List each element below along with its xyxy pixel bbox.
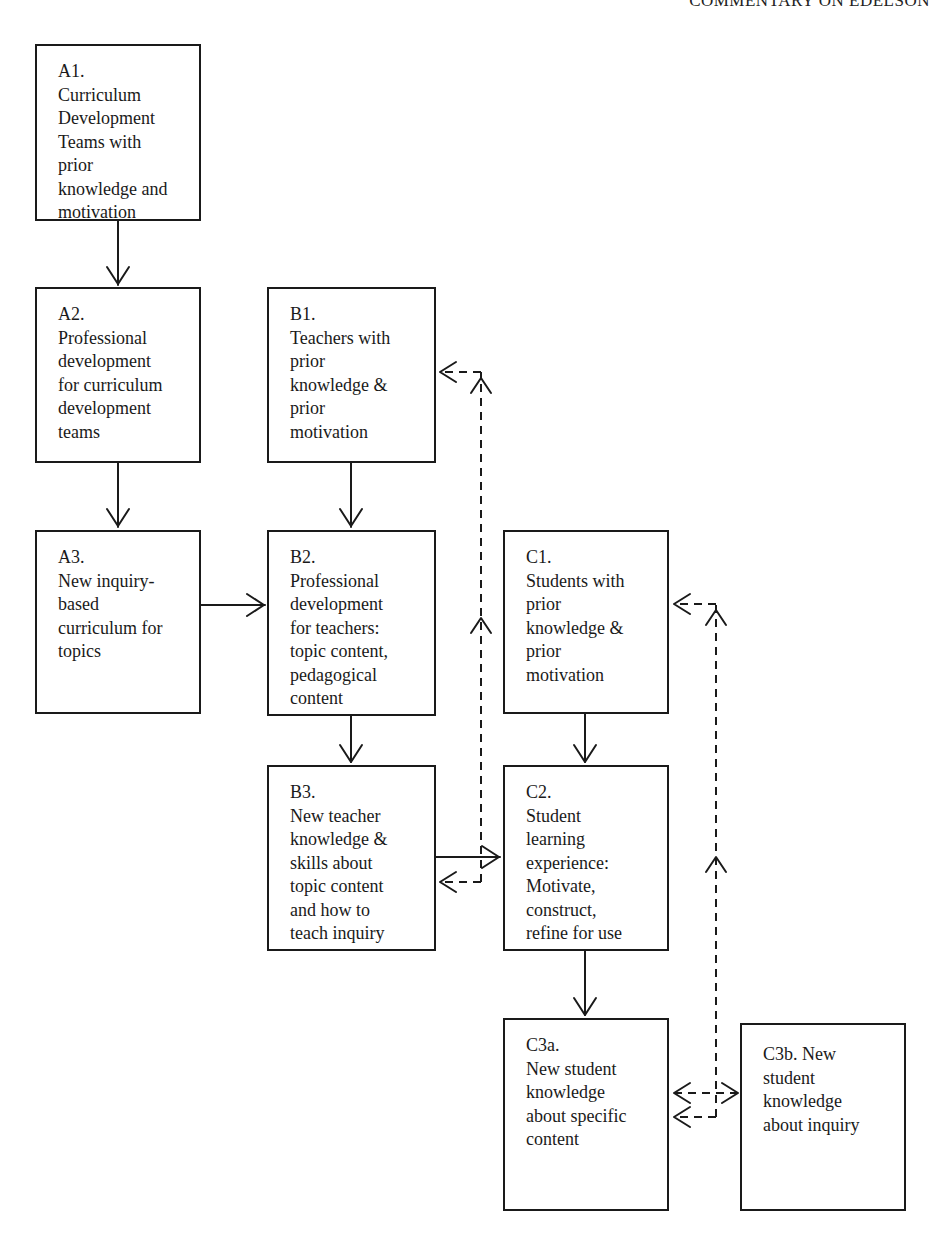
node-c2-text: Student learning experience: Motivate, c… — [526, 805, 657, 946]
node-b1: B1. Teachers with prior knowledge & prio… — [267, 287, 436, 463]
running-head: COMMENTARY ON EDELSON — [689, 0, 930, 11]
node-a3-text: New inquiry- based curriculum for topics — [58, 570, 189, 664]
node-c3b-label: C3b. New — [763, 1043, 894, 1067]
node-c1-text: Students with prior knowledge & prior mo… — [526, 570, 657, 688]
node-b2-text: Professional development for teachers: t… — [290, 570, 424, 711]
arrow-c1-c2 — [574, 713, 596, 762]
node-c3b-text: student knowledge about inquiry — [763, 1067, 894, 1138]
node-b2: B2. Professional development for teacher… — [267, 530, 436, 716]
node-b1-label: B1. — [290, 303, 424, 327]
node-b2-label: B2. — [290, 546, 424, 570]
node-b3-label: B3. — [290, 781, 424, 805]
node-a3-label: A3. — [58, 546, 189, 570]
arrow-b1-b2 — [340, 462, 362, 527]
node-c3b: C3b. New student knowledge about inquiry — [740, 1023, 906, 1211]
node-b3: B3. New teacher knowledge & skills about… — [267, 765, 436, 951]
arrow-a2-a3 — [107, 462, 129, 527]
node-b3-text: New teacher knowledge & skills about top… — [290, 805, 424, 946]
node-a1-text: Curriculum Development Teams with prior … — [58, 84, 189, 225]
feedback-loop-teacher — [440, 362, 491, 892]
arrow-b3-c2 — [435, 846, 500, 868]
arrow-c2-c3a — [574, 950, 596, 1015]
node-c1: C1. Students with prior knowledge & prio… — [503, 530, 669, 714]
node-a1: A1. Curriculum Development Teams with pr… — [35, 44, 201, 221]
node-c3a-label: C3a. — [526, 1034, 657, 1058]
node-c2: C2. Student learning experience: Motivat… — [503, 765, 669, 951]
feedback-loop-student — [674, 594, 738, 1127]
node-a2-label: A2. — [58, 303, 189, 327]
node-a3: A3. New inquiry- based curriculum for to… — [35, 530, 201, 714]
node-c3a-text: New student knowledge about specific con… — [526, 1058, 657, 1152]
arrow-b2-b3 — [340, 715, 362, 762]
node-a2-text: Professional development for curriculum … — [58, 327, 189, 445]
node-b1-text: Teachers with prior knowledge & prior mo… — [290, 327, 424, 445]
node-c2-label: C2. — [526, 781, 657, 805]
node-a1-label: A1. — [58, 60, 189, 84]
arrow-a3-b2 — [200, 594, 265, 616]
arrow-a1-a2 — [107, 220, 129, 285]
node-c3a: C3a. New student knowledge about specifi… — [503, 1018, 669, 1211]
node-a2: A2. Professional development for curricu… — [35, 287, 201, 463]
node-c1-label: C1. — [526, 546, 657, 570]
